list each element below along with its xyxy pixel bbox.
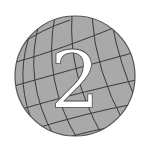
globe-icon: 2 (0, 0, 150, 153)
globe-badge: 2 (0, 0, 150, 153)
numeral-label: 2 (50, 36, 100, 126)
